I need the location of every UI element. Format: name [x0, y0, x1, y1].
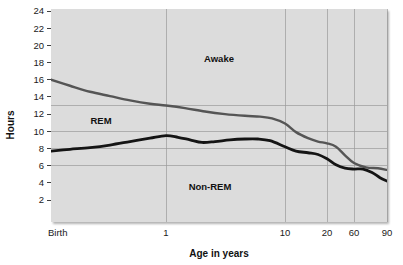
y-axis-tick-label: 10: [33, 126, 44, 137]
x-axis-tick-label: Birth: [48, 227, 68, 238]
x-axis-tick-label: 20: [322, 227, 333, 238]
y-axis-tick-label: 12: [33, 108, 44, 119]
y-axis-tick-label: 14: [33, 91, 44, 102]
sleep-hours-chart: 24681012141618202224 Birth110206090 Hour…: [0, 0, 403, 265]
x-axis-title: Age in years: [189, 248, 249, 259]
chart-svg: 24681012141618202224 Birth110206090 Hour…: [0, 0, 403, 265]
y-axis-tick-label: 8: [39, 143, 44, 154]
x-axis-tick-label: 1: [163, 227, 168, 238]
region-label-non-rem: Non-REM: [189, 181, 232, 192]
y-axis-tick-label: 20: [33, 40, 44, 51]
region-label-awake: Awake: [204, 53, 234, 64]
y-axis-tick-label: 16: [33, 74, 44, 85]
x-axis-tick-label: 90: [382, 227, 393, 238]
y-axis-tick-label: 6: [39, 160, 44, 171]
y-axis-tick-label: 4: [39, 177, 44, 188]
y-axis-tick-label: 2: [39, 194, 44, 205]
y-axis-tick-label: 24: [33, 5, 44, 16]
y-axis-title: Hours: [5, 110, 16, 139]
y-axis-tick-label: 22: [33, 23, 44, 34]
y-axis-tick-label: 18: [33, 57, 44, 68]
x-axis-tick-label: 10: [280, 227, 291, 238]
region-label-rem: REM: [90, 115, 111, 126]
x-axis-tick-label: 60: [349, 227, 360, 238]
